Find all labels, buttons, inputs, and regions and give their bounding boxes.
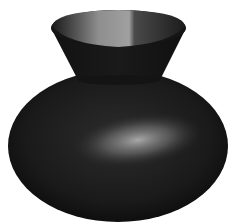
vase-body [8,70,228,222]
vase-render [0,0,236,224]
